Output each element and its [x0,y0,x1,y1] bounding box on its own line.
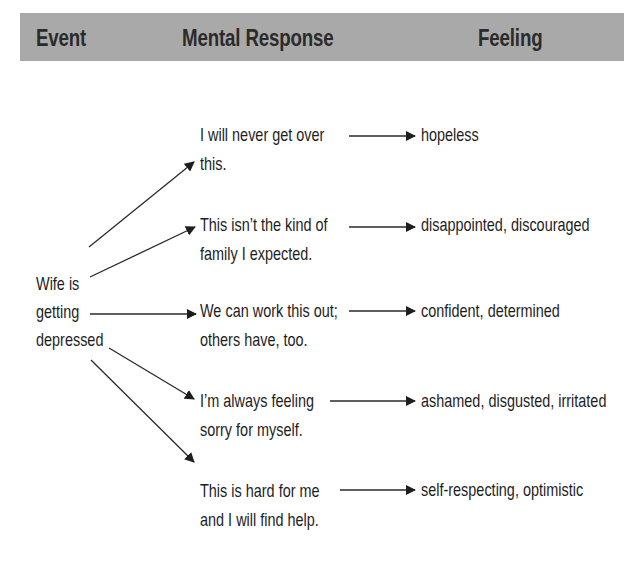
arrow-event-to-response-1 [89,162,194,247]
arrow-event-to-response-2 [90,227,195,277]
arrows-layer [0,0,640,563]
arrow-event-to-response-5 [91,360,194,462]
